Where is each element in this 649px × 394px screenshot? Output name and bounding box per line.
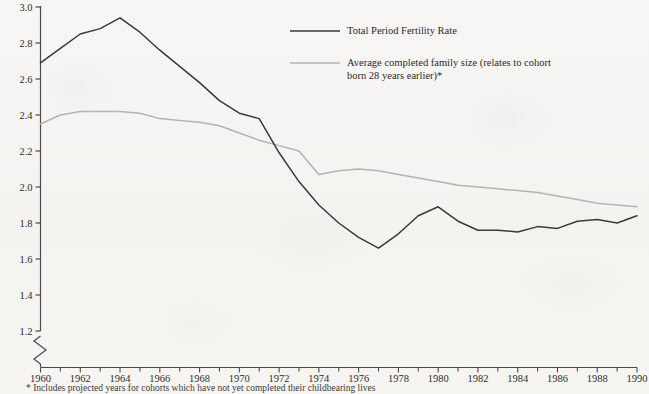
y-tick-label: 2.6: [19, 74, 32, 85]
x-tick-label: 1982: [467, 373, 488, 384]
y-axis: 1.21.41.61.82.02.22.42.62.83.0: [19, 2, 46, 367]
x-tick-label: 1984: [507, 373, 529, 384]
y-tick-label: 3.0: [19, 2, 32, 13]
y-tick-label: 1.8: [19, 218, 32, 229]
x-axis: 1960196219641966196819701972197419761978…: [30, 368, 648, 385]
y-tick-label: 2.4: [19, 110, 33, 121]
x-tick-label: 1990: [627, 373, 648, 384]
series-line-total-period-fertility-rate: [41, 18, 638, 248]
x-tick-label: 1986: [547, 373, 568, 384]
x-tick-marks: [41, 368, 638, 373]
x-tick-label: 1988: [587, 373, 608, 384]
y-axis-break-symbol: [34, 336, 46, 364]
y-tick-marks: [36, 7, 41, 331]
y-tick-label: 1.6: [19, 254, 32, 265]
series-line-average-completed-family-size-relates-to-cohort-born-28-years-earlier: [41, 111, 638, 206]
y-tick-labels: 1.21.41.61.82.02.22.42.62.83.0: [19, 2, 33, 337]
x-tick-label: 1978: [388, 373, 409, 384]
y-tick-label: 1.2: [19, 326, 32, 337]
y-tick-label: 2.0: [19, 182, 32, 193]
y-tick-label: 1.4: [19, 290, 33, 301]
x-tick-label: 1980: [428, 373, 449, 384]
legend-label-average-completed-family-size: Average completed family size (relates t…: [347, 56, 597, 82]
data-series-group: [41, 18, 638, 248]
legend-label-total-period-fertility-rate: Total Period Fertility Rate: [347, 24, 457, 37]
legend-swatches: [290, 31, 340, 63]
chart-footnote: * Includes projected years for cohorts w…: [26, 383, 376, 393]
y-tick-label: 2.2: [19, 146, 32, 157]
chart-page: 1.21.41.61.82.02.22.42.62.83.0 196019621…: [0, 0, 649, 394]
y-tick-label: 2.8: [19, 38, 32, 49]
